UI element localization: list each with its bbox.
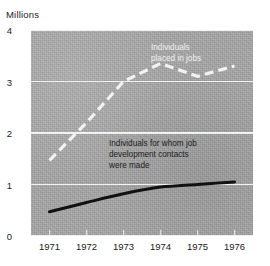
y-tick-label-4: 4 xyxy=(0,25,12,36)
annotation-individuals-placed-in-jobs: Individuals placed in jobs xyxy=(151,42,201,64)
x-tick-label-1972: 1972 xyxy=(76,241,97,252)
x-tick-label-1976: 1976 xyxy=(224,241,245,252)
series-line-job-development-contacts xyxy=(50,182,235,212)
series-plot xyxy=(31,30,253,236)
annotation-job-development-contacts: Individuals for whom job development con… xyxy=(109,138,197,171)
y-tick-label-3: 3 xyxy=(0,76,12,87)
x-tick-label-1975: 1975 xyxy=(187,241,208,252)
x-tick-label-1971: 1971 xyxy=(39,241,60,252)
x-tick-label-1974: 1974 xyxy=(150,241,171,252)
x-tick-label-1973: 1973 xyxy=(113,241,134,252)
chart-figure: Millions Individuals placed in jobs Indi… xyxy=(0,0,270,266)
y-axis-unit-label: Millions xyxy=(6,9,39,20)
plot-area: Individuals placed in jobs Individuals f… xyxy=(31,30,253,236)
y-tick-label-1: 1 xyxy=(0,179,12,190)
y-tick-label-2: 2 xyxy=(0,128,12,139)
y-tick-label-0: 0 xyxy=(0,231,12,242)
